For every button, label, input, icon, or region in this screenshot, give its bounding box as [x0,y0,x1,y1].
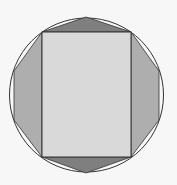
inscribed-rectangle [42,32,131,157]
geometry-diagram [0,0,177,185]
